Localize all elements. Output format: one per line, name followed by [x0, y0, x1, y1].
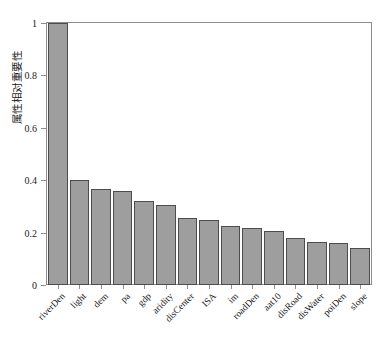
x-tick-mark: [295, 285, 296, 289]
y-tick-label: 0: [0, 280, 37, 291]
x-tick-mark: [339, 285, 340, 289]
x-tick-mark: [231, 285, 232, 289]
bar: [286, 238, 305, 285]
x-tick-mark: [360, 285, 361, 289]
y-tick-label: 1: [0, 18, 37, 29]
bar: [350, 248, 369, 285]
x-tick-mark: [209, 285, 210, 289]
bar: [70, 180, 89, 285]
bar: [91, 189, 110, 285]
y-tick-mark: [41, 285, 46, 286]
y-tick-label: 0.4: [0, 175, 37, 186]
bar: [199, 220, 218, 286]
bar: [242, 228, 261, 285]
y-tick-label: 0.8: [0, 70, 37, 81]
bar: [221, 226, 240, 285]
x-tick-mark: [252, 285, 253, 289]
bar: [113, 191, 132, 285]
bar: [178, 218, 197, 285]
bar-chart-figure: 属性相对重要性 00.20.40.60.81 riverDenlightdemp…: [0, 0, 384, 337]
bar: [264, 231, 283, 285]
y-tick-label: 0.6: [0, 122, 37, 133]
x-tick-mark: [101, 285, 102, 289]
bar: [156, 205, 175, 285]
x-tick-mark: [166, 285, 167, 289]
x-tick-mark: [187, 285, 188, 289]
x-tick-mark: [144, 285, 145, 289]
bar: [134, 201, 153, 285]
bar-series: [47, 23, 371, 285]
x-tick-mark: [317, 285, 318, 289]
bar: [329, 243, 348, 285]
x-tick-mark: [58, 285, 59, 289]
x-tick-mark: [79, 285, 80, 289]
x-tick-mark: [123, 285, 124, 289]
bar: [307, 242, 326, 285]
bar: [48, 23, 67, 285]
x-tick-mark: [274, 285, 275, 289]
y-tick-label: 0.2: [0, 227, 37, 238]
